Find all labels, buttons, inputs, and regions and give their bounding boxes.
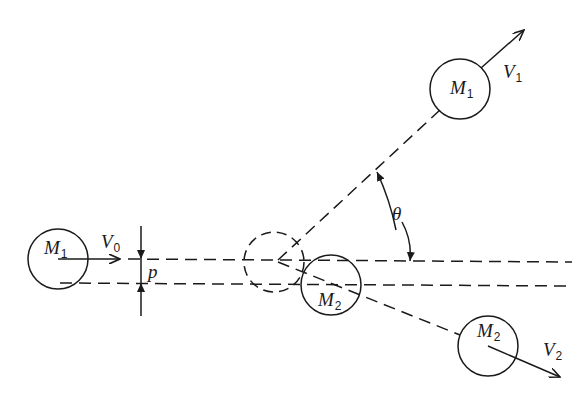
label-text: θ — [392, 203, 401, 224]
label-m2-collision: M2 — [318, 290, 342, 312]
label-theta: θ — [392, 204, 401, 223]
label-text: p — [148, 261, 158, 282]
label-subscript: 1 — [61, 247, 68, 261]
m1-outgoing-path — [278, 110, 440, 260]
m2-center-line — [60, 283, 572, 286]
label-subscript: 2 — [556, 349, 563, 363]
label-m1-final: M1 — [450, 78, 474, 100]
label-subscript: 2 — [494, 330, 501, 344]
label-subscript: 1 — [516, 71, 523, 85]
label-text: M — [44, 237, 60, 258]
label-subscript: 1 — [467, 87, 474, 101]
m2-outgoing-path — [278, 262, 460, 335]
label-v0: V0 — [101, 232, 120, 254]
collision-diagram: M1 V0 p M2 M1 V1 θ M2 V2 — [0, 0, 588, 401]
label-text: M — [318, 289, 334, 310]
label-text: M — [450, 77, 466, 98]
label-text: V — [101, 231, 113, 252]
theta-arc-lower — [400, 248, 410, 262]
label-subscript: 0 — [114, 241, 121, 255]
m1-collision-ghost — [244, 232, 304, 292]
theta-arc-bottom — [402, 222, 410, 261]
label-m2-final: M2 — [477, 321, 501, 343]
label-m1-initial: M1 — [44, 238, 68, 260]
label-subscript: 2 — [335, 299, 342, 313]
label-text: M — [477, 320, 493, 341]
label-impact-parameter: p — [148, 262, 158, 281]
label-text: V — [543, 339, 555, 360]
label-text: V — [503, 61, 515, 82]
label-v1: V1 — [503, 62, 522, 84]
label-v2: V2 — [543, 340, 562, 362]
